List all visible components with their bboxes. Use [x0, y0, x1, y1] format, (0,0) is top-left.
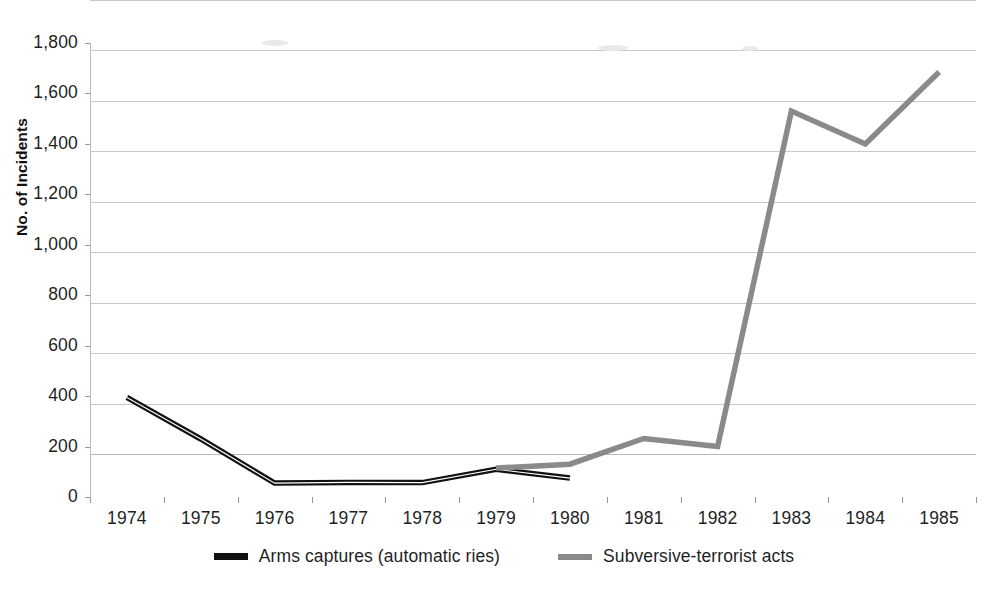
x-axis-tick	[164, 497, 165, 503]
scan-artifact	[598, 45, 628, 51]
x-axis-tick	[385, 497, 386, 503]
y-axis-tick	[85, 396, 90, 397]
x-axis-tick	[976, 497, 977, 503]
series-layer	[0, 0, 1008, 595]
x-axis-tick	[902, 497, 903, 503]
scan-artifact	[262, 40, 288, 46]
y-axis-tick-label: 1,000	[8, 234, 78, 255]
line-chart: No. of Incidents 02004006008001,0001,200…	[0, 0, 1008, 595]
x-axis-tick	[681, 497, 682, 503]
y-axis-tick	[85, 245, 90, 246]
x-axis-tick	[238, 497, 239, 503]
x-axis-tick	[312, 497, 313, 503]
gridline	[90, 353, 976, 354]
y-axis-tick-label: 200	[8, 436, 78, 457]
x-axis-tick	[90, 497, 91, 503]
y-axis-tick	[85, 144, 90, 145]
legend-item-arms-captures: Arms captures (automatic ries)	[214, 546, 500, 567]
gridline	[90, 151, 976, 152]
legend-label-arms-captures: Arms captures (automatic ries)	[259, 546, 500, 567]
gridline	[90, 404, 976, 405]
y-axis-tick	[85, 447, 90, 448]
x-axis-tick	[607, 497, 608, 503]
chart-legend: Arms captures (automatic ries) Subversiv…	[0, 546, 1008, 567]
series-line-arms-captures	[127, 397, 570, 483]
legend-label-subversive-terrorist-acts: Subversive-terrorist acts	[603, 546, 794, 567]
y-axis-tick-label: 600	[8, 335, 78, 356]
legend-swatch-dark-icon	[214, 553, 248, 560]
gridline	[90, 252, 976, 253]
scan-artifact	[742, 46, 758, 51]
series-line-arms-captures-highlight	[127, 397, 570, 483]
gridline	[90, 50, 976, 51]
y-axis-tick	[85, 43, 90, 44]
legend-item-subversive-terrorist-acts: Subversive-terrorist acts	[558, 546, 794, 567]
x-axis-tick-label: 1985	[894, 508, 984, 529]
y-axis-tick-label: 1,200	[8, 183, 78, 204]
y-axis-tick-label: 1,600	[8, 82, 78, 103]
legend-swatch-grey-icon	[558, 554, 592, 560]
y-axis-tick-label: 800	[8, 284, 78, 305]
y-axis-tick-label: 1,400	[8, 133, 78, 154]
gridline	[90, 454, 976, 455]
x-axis-tick	[533, 497, 534, 503]
y-axis-tick	[85, 93, 90, 94]
y-axis-tick-label: 0	[8, 486, 78, 507]
series-line-subversive-terrorist-acts	[496, 72, 939, 468]
y-axis-tick	[85, 295, 90, 296]
y-axis-tick-label: 400	[8, 385, 78, 406]
gridline	[90, 101, 976, 102]
y-axis-tick-label: 1,800	[8, 32, 78, 53]
gridline	[90, 303, 976, 304]
x-axis-tick	[755, 497, 756, 503]
gridline	[90, 0, 976, 1]
y-axis-tick	[85, 346, 90, 347]
gridline	[90, 202, 976, 203]
x-axis-tick	[459, 497, 460, 503]
x-axis-tick	[828, 497, 829, 503]
y-axis-tick	[85, 194, 90, 195]
y-axis-line	[90, 43, 91, 498]
